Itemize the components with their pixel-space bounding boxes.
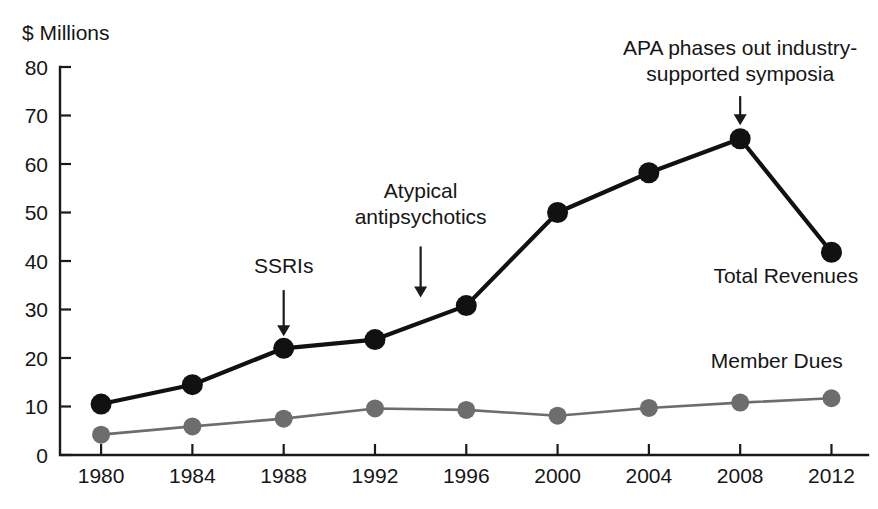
data-point xyxy=(821,242,842,263)
y-axis-ticks xyxy=(60,67,71,455)
y-axis-tick-label: 60 xyxy=(25,153,48,176)
data-point xyxy=(822,389,840,407)
data-point xyxy=(275,410,293,428)
x-axis-tick-labels: 198019841988199219962000200420082012 xyxy=(78,464,855,487)
data-point xyxy=(366,399,384,417)
annotations: SSRIsAtypicalantipsychoticsAPA phases ou… xyxy=(254,36,857,336)
data-point xyxy=(182,374,203,395)
series-member-dues xyxy=(92,389,840,443)
data-point xyxy=(547,202,568,223)
y-axis-tick-label: 50 xyxy=(25,201,48,224)
annotation-ssri: SSRIs xyxy=(254,254,314,336)
x-axis-tick-label: 2000 xyxy=(534,464,581,487)
x-axis-tick-label: 2012 xyxy=(808,464,855,487)
series-label-dues: Member Dues xyxy=(711,349,843,372)
x-axis-tick-label: 1996 xyxy=(443,464,490,487)
annotation-text: APA phases out industry- xyxy=(623,36,857,59)
series-labels: Total RevenuesMember Dues xyxy=(711,264,858,372)
y-axis-tick-label: 0 xyxy=(36,444,48,467)
data-point xyxy=(457,401,475,419)
annotation-text: Atypical xyxy=(384,179,458,202)
data-point xyxy=(640,399,658,417)
y-axis-tick-label: 30 xyxy=(25,298,48,321)
data-point xyxy=(638,162,659,183)
chart-container: 01020304050607080 1980198419881992199620… xyxy=(0,0,878,509)
annotation-arrow-head xyxy=(734,114,747,125)
y-axis-tick-label: 20 xyxy=(25,347,48,370)
data-point xyxy=(91,394,112,415)
series-label-total: Total Revenues xyxy=(713,264,858,287)
y-axis-tick-labels: 01020304050607080 xyxy=(25,56,48,467)
x-axis-tick-label: 2008 xyxy=(717,464,764,487)
annotation-arrow-head xyxy=(277,325,290,336)
annotation-text: supported symposia xyxy=(646,62,834,85)
annotation-text: SSRIs xyxy=(254,254,314,277)
annotation-arrow-head xyxy=(414,286,427,297)
x-axis-tick-label: 1988 xyxy=(260,464,307,487)
line-chart: 01020304050607080 1980198419881992199620… xyxy=(0,0,878,509)
y-axis-tick-label: 40 xyxy=(25,250,48,273)
data-point xyxy=(92,426,110,444)
annotation-atypical: Atypicalantipsychotics xyxy=(355,179,487,297)
data-point xyxy=(731,394,749,412)
annotation-text: antipsychotics xyxy=(355,205,487,228)
data-point xyxy=(183,417,201,435)
y-axis-tick-label: 80 xyxy=(25,56,48,79)
x-axis-tick-label: 1984 xyxy=(169,464,216,487)
data-point xyxy=(549,407,567,425)
x-axis-tick-label: 1980 xyxy=(78,464,125,487)
y-axis-tick-label: 10 xyxy=(25,395,48,418)
data-point xyxy=(730,128,751,149)
x-axis-tick-label: 1992 xyxy=(352,464,399,487)
data-point xyxy=(364,329,385,350)
y-axis-tick-label: 70 xyxy=(25,104,48,127)
annotation-apa: APA phases out industry-supported sympos… xyxy=(623,36,857,125)
x-axis-tick-label: 2004 xyxy=(626,464,673,487)
data-point xyxy=(273,338,294,359)
data-point xyxy=(456,295,477,316)
y-axis-title: $ Millions xyxy=(22,21,110,44)
x-axis-ticks xyxy=(101,444,831,455)
